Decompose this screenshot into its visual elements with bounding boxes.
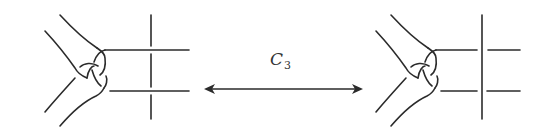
diagram-canvas: C3 [0, 0, 546, 139]
right-knot-diagram [376, 15, 520, 126]
left-knot-diagram [45, 15, 189, 126]
move-label: C3 [270, 49, 291, 72]
move-arrow [204, 84, 363, 94]
